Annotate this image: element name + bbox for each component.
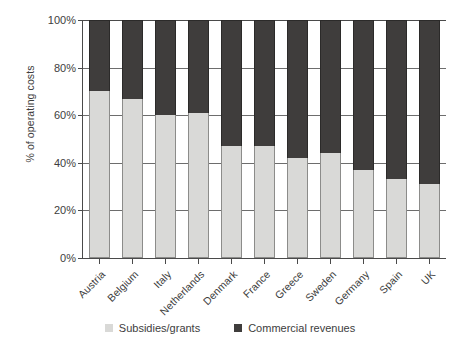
x-axis-tick-marks — [82, 258, 445, 264]
bar-segment-commercial-revenues[interactable] — [320, 20, 340, 153]
bar-segment-commercial-revenues[interactable] — [287, 20, 307, 158]
stacked-bar[interactable] — [353, 20, 373, 258]
legend-swatch-icon — [105, 324, 113, 332]
y-axis-title: % of operating costs — [24, 24, 36, 204]
x-tick-mark — [148, 258, 181, 264]
stacked-bar[interactable] — [122, 20, 142, 258]
bar-segment-subsidies-grants[interactable] — [419, 184, 439, 258]
stacked-bar[interactable] — [254, 20, 274, 258]
x-axis-label-uk: UK — [418, 268, 437, 287]
bar-segment-commercial-revenues[interactable] — [254, 20, 274, 146]
legend-label: Commercial revenues — [248, 322, 355, 334]
bar-slot — [149, 20, 182, 258]
x-tick-mark — [82, 258, 115, 264]
plot-area: 100%80%60%40%20%0% — [82, 20, 446, 259]
x-tick-mark — [214, 258, 247, 264]
stacked-bar-chart: % of operating costs 100%80%60%40%20%0% … — [0, 0, 460, 352]
page-edge — [0, 344, 460, 352]
bar-segment-subsidies-grants[interactable] — [89, 91, 109, 258]
bar-slot — [83, 20, 116, 258]
stacked-bar[interactable] — [419, 20, 439, 258]
bar-slot — [281, 20, 314, 258]
stacked-bar[interactable] — [221, 20, 241, 258]
bar-segment-subsidies-grants[interactable] — [155, 115, 175, 258]
legend-label: Subsidies/grants — [119, 322, 200, 334]
x-tick-mark — [313, 258, 346, 264]
bar-segment-commercial-revenues[interactable] — [353, 20, 373, 170]
bar-slot — [215, 20, 248, 258]
bar-segment-commercial-revenues[interactable] — [419, 20, 439, 184]
stacked-bar[interactable] — [287, 20, 307, 258]
stacked-bar[interactable] — [155, 20, 175, 258]
bar-segment-commercial-revenues[interactable] — [221, 20, 241, 146]
stacked-bar[interactable] — [320, 20, 340, 258]
x-label-cell: UK — [412, 266, 445, 322]
bars-layer — [83, 20, 446, 258]
bar-segment-subsidies-grants[interactable] — [122, 99, 142, 258]
legend-item[interactable]: Subsidies/grants — [105, 322, 200, 334]
y-tick-label: 40% — [54, 157, 76, 169]
y-tick-label: 80% — [54, 62, 76, 74]
bar-slot — [314, 20, 347, 258]
x-tick-mark — [280, 258, 313, 264]
x-label-cell: Spain — [379, 266, 412, 322]
x-tick-mark — [115, 258, 148, 264]
x-axis-category-labels: AustriaBelgiumItalyNetherlandsDenmarkFra… — [82, 266, 445, 322]
stacked-bar[interactable] — [89, 20, 109, 258]
y-tick-label: 0% — [60, 252, 76, 264]
x-label-cell: Germany — [346, 266, 379, 322]
bar-segment-commercial-revenues[interactable] — [155, 20, 175, 115]
x-tick-mark — [379, 258, 412, 264]
y-tick-label: 100% — [48, 14, 76, 26]
bar-segment-subsidies-grants[interactable] — [188, 113, 208, 258]
bar-segment-subsidies-grants[interactable] — [254, 146, 274, 258]
bar-segment-subsidies-grants[interactable] — [320, 153, 340, 258]
bar-slot — [380, 20, 413, 258]
y-tick-label: 60% — [54, 109, 76, 121]
legend-swatch-icon — [234, 324, 242, 332]
bar-segment-commercial-revenues[interactable] — [89, 20, 109, 91]
x-tick-mark — [412, 258, 445, 264]
legend-item[interactable]: Commercial revenues — [234, 322, 355, 334]
stacked-bar[interactable] — [386, 20, 406, 258]
bar-slot — [413, 20, 446, 258]
y-tick-label: 20% — [54, 204, 76, 216]
x-label-cell: Belgium — [115, 266, 148, 322]
x-tick-mark — [247, 258, 280, 264]
bar-segment-commercial-revenues[interactable] — [386, 20, 406, 179]
x-axis-label-spain: Spain — [376, 268, 404, 296]
x-tick-mark — [346, 258, 379, 264]
bar-segment-subsidies-grants[interactable] — [386, 179, 406, 258]
stacked-bar[interactable] — [188, 20, 208, 258]
bar-slot — [347, 20, 380, 258]
chart-legend: Subsidies/grantsCommercial revenues — [0, 322, 460, 334]
bar-segment-commercial-revenues[interactable] — [188, 20, 208, 113]
x-axis-label-austria: Austria — [75, 268, 107, 300]
bar-slot — [182, 20, 215, 258]
bar-slot — [248, 20, 281, 258]
bar-slot — [116, 20, 149, 258]
x-tick-mark — [181, 258, 214, 264]
bar-segment-subsidies-grants[interactable] — [221, 146, 241, 258]
bar-segment-subsidies-grants[interactable] — [353, 170, 373, 258]
bar-segment-subsidies-grants[interactable] — [287, 158, 307, 258]
bar-segment-commercial-revenues[interactable] — [122, 20, 142, 99]
x-axis-label-italy: Italy — [151, 268, 173, 290]
